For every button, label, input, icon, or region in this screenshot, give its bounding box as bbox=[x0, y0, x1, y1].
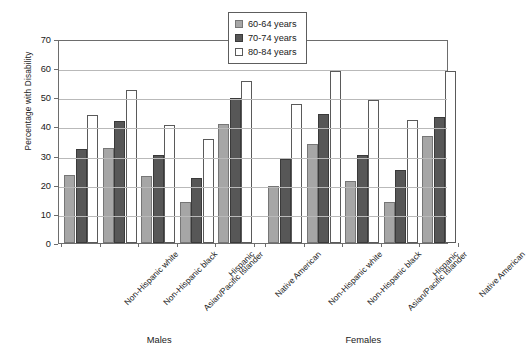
bar bbox=[87, 115, 98, 243]
gridline bbox=[59, 70, 447, 71]
bar bbox=[153, 155, 164, 243]
bar bbox=[218, 124, 229, 243]
bar bbox=[164, 125, 175, 243]
legend-item: 60-64 years bbox=[235, 17, 297, 31]
bar bbox=[103, 148, 114, 243]
bar bbox=[318, 114, 329, 243]
x-axis-tick-mark bbox=[254, 243, 255, 247]
bar bbox=[126, 90, 137, 243]
bar bbox=[307, 144, 318, 243]
bar-group bbox=[64, 41, 98, 243]
bar bbox=[384, 202, 395, 243]
x-axis-tick-mark bbox=[61, 243, 62, 247]
legend-item: 70-74 years bbox=[235, 31, 297, 45]
x-axis-tick-mark bbox=[215, 243, 216, 247]
x-axis-tick-mark bbox=[265, 243, 266, 247]
x-axis-tick-mark bbox=[419, 243, 420, 247]
bar-group bbox=[422, 41, 456, 243]
legend-swatch-70-74-icon bbox=[235, 34, 243, 42]
x-axis-tick-mark bbox=[100, 243, 101, 247]
x-axis-tick-mark bbox=[342, 243, 343, 247]
group-label-females: Females bbox=[323, 335, 403, 345]
bar-group bbox=[384, 41, 418, 243]
legend-swatch-80-84-icon bbox=[235, 48, 243, 56]
bars-layer bbox=[59, 41, 447, 243]
bar bbox=[395, 170, 406, 243]
y-axis-tick-mark bbox=[54, 127, 58, 128]
bar bbox=[114, 121, 125, 243]
gridline bbox=[59, 128, 447, 129]
legend-label: 60-64 years bbox=[248, 19, 297, 29]
y-axis-tick-mark bbox=[54, 244, 58, 245]
y-axis-tick-mark bbox=[54, 69, 58, 70]
legend-label: 70-74 years bbox=[248, 33, 297, 43]
gridline bbox=[59, 216, 447, 217]
legend-label: 80-84 years bbox=[248, 47, 297, 57]
bar bbox=[203, 139, 214, 243]
bar bbox=[241, 81, 252, 243]
bar bbox=[345, 181, 356, 243]
bar bbox=[76, 149, 87, 243]
x-axis-category-label: Native American bbox=[273, 249, 323, 299]
bar-group bbox=[268, 41, 302, 243]
bar bbox=[280, 159, 291, 244]
legend-swatch-60-64-icon bbox=[235, 20, 243, 28]
x-axis-tick-mark bbox=[177, 243, 178, 247]
bar bbox=[64, 175, 75, 243]
bar bbox=[291, 104, 302, 243]
gridline bbox=[59, 187, 447, 188]
x-axis-tick-mark bbox=[381, 243, 382, 247]
bar bbox=[407, 120, 418, 243]
gridline bbox=[59, 99, 447, 100]
y-axis-tick-mark bbox=[54, 98, 58, 99]
bar-group bbox=[103, 41, 137, 243]
y-axis-tick-mark bbox=[54, 40, 58, 41]
x-axis-tick-mark bbox=[304, 243, 305, 247]
legend-item: 80-84 years bbox=[235, 45, 297, 59]
bar-group bbox=[345, 41, 379, 243]
bar bbox=[268, 186, 279, 243]
bar bbox=[230, 98, 241, 243]
bar bbox=[422, 136, 433, 243]
y-axis-tick-mark bbox=[54, 186, 58, 187]
y-axis-tick-mark bbox=[54, 157, 58, 158]
gridline bbox=[59, 158, 447, 159]
group-label-males: Males bbox=[119, 335, 199, 345]
plot-area bbox=[58, 40, 448, 244]
legend: 60-64 years 70-74 years 80-84 years bbox=[228, 12, 307, 64]
bar bbox=[368, 100, 379, 243]
x-axis-category-label: Native American bbox=[477, 249, 527, 299]
bar-group bbox=[307, 41, 341, 243]
x-axis-tick-mark bbox=[458, 243, 459, 247]
bar-group bbox=[180, 41, 214, 243]
bar-group bbox=[218, 41, 252, 243]
bar-group bbox=[141, 41, 175, 243]
x-axis-tick-mark bbox=[138, 243, 139, 247]
bar bbox=[357, 155, 368, 243]
bar bbox=[434, 117, 445, 243]
y-axis-tick-mark bbox=[54, 215, 58, 216]
bar bbox=[180, 202, 191, 243]
bar bbox=[191, 178, 202, 243]
